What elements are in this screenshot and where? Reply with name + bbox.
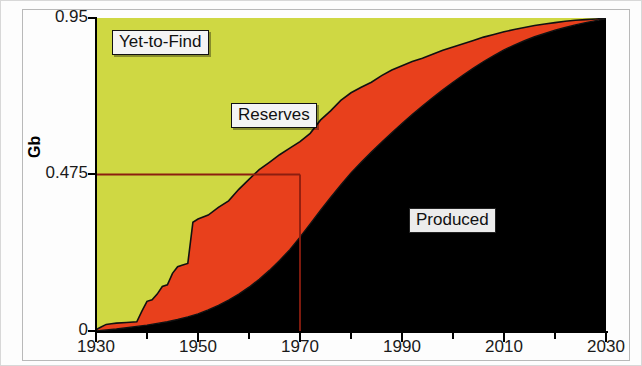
series-label-reserves: Reserves	[231, 103, 317, 128]
x-tick-label-1950: 1950	[158, 337, 238, 357]
y-tick-label-0475: 0.475	[14, 163, 88, 183]
y-tick-label-095: 0.95	[14, 7, 88, 27]
y-tick-mark-0475	[88, 173, 97, 175]
plot-area	[96, 18, 606, 331]
x-tick-label-1990: 1990	[362, 337, 442, 357]
x-tick-mark-2020	[554, 333, 556, 339]
y-axis-label: Gb	[26, 136, 44, 158]
x-tick-label-2030: 2030	[566, 337, 642, 357]
y-tick-mark-0	[88, 330, 97, 332]
x-tick-mark-2000	[452, 333, 454, 339]
x-tick-mark-1980	[350, 333, 352, 339]
chart-figure: 0.95 0.475 0 Gb 1930 1950 1970 1990 2010…	[0, 0, 642, 366]
x-tick-label-1970: 1970	[260, 337, 340, 357]
stacked-area-svg	[96, 18, 606, 331]
x-tick-mark-1940	[146, 333, 148, 339]
series-label-yet-to-find: Yet-to-Find	[112, 30, 209, 55]
series-label-produced: Produced	[409, 208, 496, 233]
x-tick-mark-1960	[248, 333, 250, 339]
x-tick-label-1930: 1930	[56, 337, 136, 357]
x-tick-label-2010: 2010	[464, 337, 544, 357]
y-tick-mark-095	[88, 17, 97, 19]
y-axis-line	[95, 18, 97, 333]
